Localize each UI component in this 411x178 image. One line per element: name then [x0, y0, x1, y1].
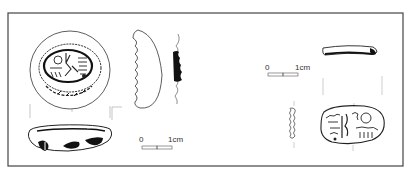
scale-bar-right-start-label: 0: [265, 63, 270, 72]
scarab-2-base-plan: [321, 106, 384, 144]
scarab-1-section: [173, 34, 182, 104]
scale-bar-left: 0 1cm: [139, 135, 183, 149]
figure-canvas: 0 1cm 0 1cm: [0, 0, 411, 178]
scale-bar-left-start-label: 0: [139, 135, 144, 144]
scarab-2-section: [290, 108, 296, 138]
scale-bar-right-end-label: 1cm: [295, 63, 310, 72]
scarab-2-top-profile: [323, 46, 377, 55]
scarab-1-base-plan: [30, 31, 110, 109]
scarab-1-side-profile: [133, 30, 162, 108]
scarab-1-back-view: [28, 125, 111, 151]
scale-bar-right: 0 1cm: [265, 63, 310, 76]
scarab-1-guide-lines: [30, 104, 122, 120]
scale-bar-left-end-label: 1cm: [168, 135, 183, 144]
